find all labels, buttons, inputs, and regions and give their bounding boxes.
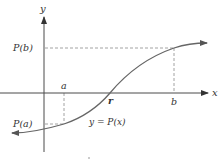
label-b: b [171,96,177,107]
label-p-of-a: P(a) [12,118,33,129]
curve-main [64,43,207,124]
label-r: r [108,95,114,106]
y-axis-label: y [39,3,46,14]
label-a: a [61,80,67,91]
label-curve-equation: y = P(x) [88,117,126,127]
stray-mark [88,157,90,159]
label-p-of-b: P(b) [12,42,33,53]
function-graph-diagram: y x P(b) P(a) a b r y = P(x) [0,0,223,160]
x-axis-label: x [212,87,218,98]
